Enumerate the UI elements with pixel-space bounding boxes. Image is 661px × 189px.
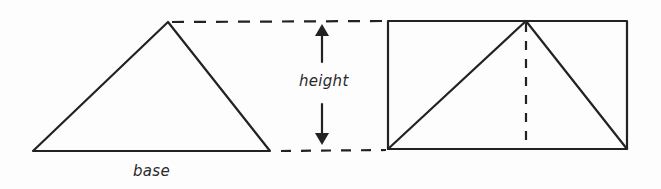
bottom-guide-dashed-line [281,150,386,151]
height-label: height [299,72,349,90]
enclosing-rectangle [388,21,627,149]
base-label: base [133,162,170,180]
top-guide-dashed-line [172,21,386,22]
inner-triangle [388,21,627,149]
diagram-drawing [0,0,661,189]
triangle-area-diagram: height base [0,0,661,189]
arrow-down-icon [315,133,329,145]
left-triangle [33,22,270,151]
arrow-up-icon [315,24,329,36]
